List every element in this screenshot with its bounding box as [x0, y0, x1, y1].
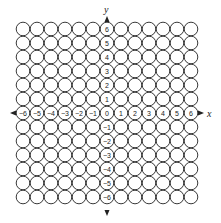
grid-circle	[142, 176, 156, 190]
grid-circle	[142, 22, 156, 36]
grid-circle	[156, 36, 170, 50]
grid-circle	[44, 92, 58, 106]
x-axis-tick-label: 2	[133, 110, 137, 117]
grid-circle	[58, 92, 72, 106]
grid-circle	[86, 162, 100, 176]
y-axis-tick-label: 3	[105, 68, 109, 75]
grid-circle	[156, 176, 170, 190]
x-axis-tick-label: 5	[175, 110, 179, 117]
grid-circle	[30, 162, 44, 176]
grid-circle	[128, 120, 142, 134]
grid-circle	[86, 22, 100, 36]
grid-circle	[16, 64, 30, 78]
grid-circle	[30, 190, 44, 204]
grid-circle	[142, 120, 156, 134]
grid-circle	[170, 148, 184, 162]
grid-circle	[58, 78, 72, 92]
y-axis-tick-label: 5	[105, 40, 109, 47]
grid-circle	[114, 50, 128, 64]
grid-circle	[86, 120, 100, 134]
grid-circle	[184, 78, 198, 92]
grid-circle	[16, 36, 30, 50]
grid-circle	[44, 134, 58, 148]
grid-circle	[170, 176, 184, 190]
grid-circle	[170, 134, 184, 148]
grid-circle	[72, 134, 86, 148]
grid-circle	[72, 190, 86, 204]
x-axis-tick-label: −3	[61, 110, 69, 117]
grid-circle	[156, 22, 170, 36]
grid-circle	[170, 190, 184, 204]
grid-circle	[44, 64, 58, 78]
grid-circle	[184, 134, 198, 148]
y-axis-tick-label: 4	[105, 54, 109, 61]
grid-circle	[58, 134, 72, 148]
grid-circle	[72, 22, 86, 36]
grid-circle	[86, 50, 100, 64]
y-axis-arrow-up-icon	[105, 16, 110, 22]
grid-circle	[16, 92, 30, 106]
grid-circle	[72, 148, 86, 162]
grid-circle	[86, 176, 100, 190]
grid-circle	[114, 148, 128, 162]
y-axis-tick-label: −2	[103, 138, 111, 145]
grid-circle	[170, 36, 184, 50]
grid-circle	[30, 92, 44, 106]
grid-circle	[72, 162, 86, 176]
grid-circle	[114, 36, 128, 50]
grid-circle	[114, 162, 128, 176]
grid-circle	[184, 50, 198, 64]
grid-circle	[170, 22, 184, 36]
x-axis-tick-label: −1	[89, 110, 97, 117]
grid-circle	[58, 148, 72, 162]
grid-circle	[156, 190, 170, 204]
grid-circle	[86, 36, 100, 50]
grid-circle	[16, 78, 30, 92]
x-axis-tick-label: −4	[47, 110, 55, 117]
grid-circle	[86, 64, 100, 78]
grid-circle	[184, 190, 198, 204]
grid-circle	[44, 190, 58, 204]
grid-circle	[44, 36, 58, 50]
grid-circle	[30, 50, 44, 64]
grid-circle	[30, 148, 44, 162]
grid-circle	[44, 22, 58, 36]
grid-circle	[44, 120, 58, 134]
grid-circle	[44, 148, 58, 162]
grid-circle	[142, 92, 156, 106]
grid-circle	[72, 50, 86, 64]
grid-circle	[30, 134, 44, 148]
grid-circle	[114, 22, 128, 36]
grid-circle	[170, 64, 184, 78]
grid-circle	[184, 120, 198, 134]
grid-circle	[170, 78, 184, 92]
grid-circle	[142, 148, 156, 162]
x-axis-tick-label: 3	[147, 110, 151, 117]
grid-circle	[58, 22, 72, 36]
grid-circle	[44, 162, 58, 176]
grid-circle	[156, 148, 170, 162]
grid-circle	[156, 78, 170, 92]
grid-circle	[142, 64, 156, 78]
grid-circle	[114, 92, 128, 106]
grid-circle	[128, 64, 142, 78]
grid-circle	[184, 148, 198, 162]
grid-circle	[128, 92, 142, 106]
grid-circle	[58, 176, 72, 190]
grid-circle	[156, 92, 170, 106]
grid-circle	[86, 78, 100, 92]
grid-circle	[142, 50, 156, 64]
grid-circle	[142, 36, 156, 50]
grid-circle	[86, 190, 100, 204]
grid-circle	[16, 162, 30, 176]
grid-circle	[156, 64, 170, 78]
grid-circle	[114, 134, 128, 148]
grid-circle	[184, 36, 198, 50]
y-axis-tick-label: −5	[103, 180, 111, 187]
grid-circle	[30, 36, 44, 50]
grid-circle	[170, 50, 184, 64]
grid-circle	[16, 176, 30, 190]
y-axis-tick-label: −6	[103, 194, 111, 201]
grid-circle	[156, 50, 170, 64]
grid-circle	[184, 176, 198, 190]
